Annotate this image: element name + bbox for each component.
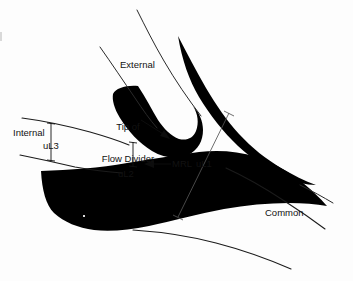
flow-divider-callout-line1: Tip of [92,122,164,133]
common-branch-label: Common [265,208,304,219]
scan-artifact-speck-2 [83,215,85,217]
ul2-measure-label: uL2 [118,169,134,180]
external-branch-label: External [120,60,155,71]
mrl-callout-label: MRL [172,159,192,170]
common-carotid-lower-wall [133,230,291,269]
ul3-measure-label: uL3 [43,141,59,152]
scan-artifact-speck [0,32,2,41]
ul1-measure-label: uL1 [196,159,212,170]
internal-branch-label: Internal [13,128,45,139]
flow-divider-callout-line2: Flow Divider [92,154,164,165]
carotid-bifurcation-figure: External Internal Common Tip of Flow Div… [0,0,353,281]
